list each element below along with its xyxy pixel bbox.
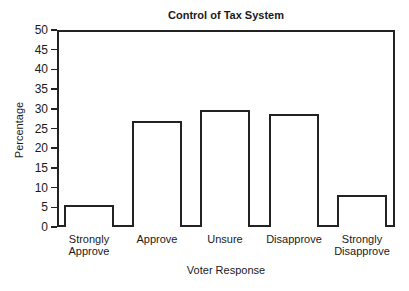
y-tick [51, 88, 57, 90]
bar [64, 205, 114, 227]
bar [269, 114, 319, 227]
x-tick-label-line: Unsure [185, 233, 265, 245]
bar [337, 195, 387, 227]
y-tick-label: 15 [24, 162, 48, 174]
y-tick-label: 20 [24, 142, 48, 154]
x-tick-label-line: Approve [49, 245, 129, 257]
y-tick-label: 40 [24, 63, 48, 75]
y-tick-label: 10 [24, 182, 48, 194]
x-axis-title: Voter Response [57, 264, 395, 276]
y-tick [51, 108, 57, 110]
chart-title: Control of Tax System [57, 9, 395, 21]
y-tick [51, 29, 57, 31]
y-tick-label: 25 [24, 123, 48, 135]
y-tick [51, 207, 57, 209]
x-tick-label-line: Disapprove [322, 245, 402, 257]
y-tick-label: 35 [24, 83, 48, 95]
y-tick-label: 50 [24, 24, 48, 36]
bar [132, 121, 182, 227]
x-tick-label-line: Strongly [322, 233, 402, 245]
y-tick-label: 45 [24, 44, 48, 56]
y-tick [51, 167, 57, 169]
y-tick-label: 5 [24, 201, 48, 213]
bar [200, 110, 250, 227]
y-tick [51, 69, 57, 71]
y-tick [51, 49, 57, 51]
x-tick-label: StronglyDisapprove [322, 233, 402, 257]
y-tick-label: 0 [24, 221, 48, 233]
y-tick [51, 187, 57, 189]
y-tick [51, 226, 57, 228]
y-tick [51, 147, 57, 149]
x-tick-label: Unsure [185, 233, 265, 245]
y-tick [51, 128, 57, 130]
y-tick-label: 30 [24, 103, 48, 115]
